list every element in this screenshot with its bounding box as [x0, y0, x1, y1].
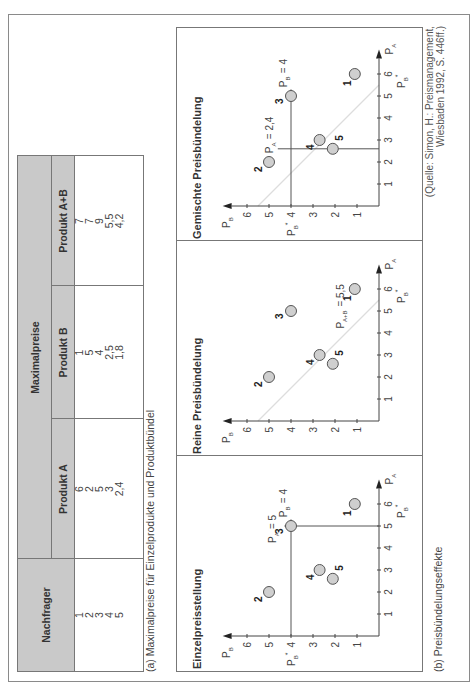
- data-point-4: [314, 350, 325, 361]
- x-tick-label: 4: [383, 545, 394, 551]
- pb-star-y-label: PB*: [284, 652, 299, 666]
- point-label: 4: [305, 359, 316, 365]
- y-tick-label: 4: [286, 642, 297, 648]
- pb-star-label: PB*: [394, 289, 409, 303]
- y-tick-label: 2: [330, 212, 341, 218]
- annotation-pa: PA: [267, 532, 280, 543]
- point-label: 3: [274, 98, 285, 104]
- point-label: 2: [253, 381, 264, 387]
- header-produkt-a: Produkt A: [51, 419, 74, 559]
- point-label: 2: [253, 596, 264, 602]
- source-citation: (Quelle: Simon, H.: Preismanagement, Wie…: [424, 26, 446, 197]
- caption-a: (a) Maximalpreise für Einzelprodukte und…: [144, 410, 156, 672]
- max-price-table: Nachfrager Maximalpreise Produkt A Produ…: [17, 155, 144, 672]
- x-axis-label: PA: [384, 259, 397, 270]
- header-produkt-ab-label: Produkt A+B: [57, 189, 69, 253]
- data-point-3: [286, 91, 297, 102]
- data-point-4: [314, 135, 325, 146]
- annotation-pb: PB: [278, 77, 291, 88]
- panel-gemischte-preisbuendelung: Gemischte Preisbündelung 123456123456PAP…: [177, 26, 422, 241]
- panel-einzelpreisstellung: Einzelpreisstellung 123456123456PAPBPB*P…: [177, 456, 422, 671]
- y-axis-arrow-icon: [223, 633, 232, 639]
- cell: 5: [114, 612, 124, 618]
- x-tick-label: 2: [383, 159, 394, 165]
- x-tick-label: 1: [383, 396, 394, 402]
- source-line-1: (Quelle: Simon, H.: Preismanagement,: [424, 26, 435, 197]
- annotation-pab-value: = 5,5: [335, 284, 346, 307]
- data-point-3: [286, 521, 297, 532]
- x-tick-label: 5: [383, 308, 394, 314]
- y-tick-label: 4: [286, 427, 297, 433]
- point-label: 4: [305, 144, 316, 150]
- panel-reine-preisbuendelung: Reine Preisbündelung 123456123456PAPBPB*…: [177, 241, 422, 456]
- y-tick-label: 6: [242, 427, 253, 433]
- source-line-2: Wiesbaden 1992, S. 446ff.): [435, 26, 446, 197]
- annotation-pa-value: = 5: [267, 514, 278, 529]
- x-tick-label: 2: [383, 374, 394, 380]
- y-axis-label: PB: [221, 647, 234, 658]
- header-nachfrager-label: Nachfrager: [40, 587, 52, 642]
- cell: 1,8: [114, 345, 124, 360]
- y-tick-label: 6: [242, 642, 253, 648]
- pb-star-label: PB*: [394, 504, 409, 518]
- x-tick-label: 2: [383, 589, 394, 595]
- annotation-pb-value: = 4: [278, 489, 289, 504]
- y-tick-label: 5: [264, 642, 275, 648]
- x-tick-label: 5: [383, 93, 394, 99]
- y-tick-label: 3: [308, 212, 319, 218]
- column-produkt-ab: 7 7 9 5,5 4,2: [74, 156, 124, 286]
- point-label: 2: [253, 166, 264, 172]
- x-axis-arrow-icon: [376, 50, 382, 59]
- data-point-5: [327, 358, 338, 369]
- x-axis-arrow-icon: [376, 480, 382, 489]
- header-nachfrager: Nachfrager: [18, 559, 74, 671]
- charts-box: Einzelpreisstellung 123456123456PAPBPB*P…: [176, 27, 423, 672]
- y-tick-label: 4: [286, 212, 297, 218]
- header-produkt-a-label: Produkt A: [57, 464, 69, 514]
- x-tick-label: 4: [383, 330, 394, 336]
- data-point-3: [286, 306, 297, 317]
- annotation-pab: PA+B: [335, 310, 348, 328]
- scatter-chart: 123456123456PAPBPB*PB*12345PA= 2,4PB= 4: [177, 26, 422, 241]
- y-axis-arrow-icon: [223, 418, 232, 424]
- y-tick-label: 3: [308, 642, 319, 648]
- x-axis-label: PA: [384, 474, 397, 485]
- cell: 4,2: [114, 214, 124, 229]
- y-tick-label: 2: [330, 642, 341, 648]
- y-tick-label: 5: [264, 212, 275, 218]
- data-point-4: [314, 565, 325, 576]
- x-tick-label: 4: [383, 115, 394, 121]
- header-produkt-b: Produkt B: [51, 286, 74, 419]
- annotation-pb-value: = 4: [278, 59, 289, 74]
- annotation-pa: PA: [264, 143, 277, 154]
- data-point-1: [349, 284, 360, 295]
- figure-canvas: Nachfrager Maximalpreise Produkt A Produ…: [0, 0, 475, 689]
- column-produkt-b: 1 5 4 2,5 1,8: [74, 286, 124, 419]
- x-tick-label: 6: [383, 286, 394, 292]
- data-point-1: [349, 69, 360, 80]
- x-tick-label: 3: [383, 352, 394, 358]
- point-label: 5: [334, 350, 345, 356]
- x-axis-label: PA: [384, 44, 397, 55]
- point-label: 1: [342, 510, 353, 516]
- y-axis-arrow-icon: [223, 203, 232, 209]
- scatter-chart: 123456123456PAPBPB*PB*12345PA= 5PB= 4: [177, 456, 422, 671]
- scatter-chart: 123456123456PAPBPB*12345PA+B= 5,5: [177, 241, 422, 456]
- x-tick-label: 3: [383, 137, 394, 143]
- y-tick-label: 6: [242, 212, 253, 218]
- y-tick-label: 2: [330, 427, 341, 433]
- x-tick-label: 5: [383, 523, 394, 529]
- data-point-2: [264, 587, 275, 598]
- annotation-pb: PB: [278, 507, 291, 518]
- x-tick-label: 1: [383, 181, 394, 187]
- header-maximalpreise-label: Maximalpreise: [29, 321, 41, 393]
- annotation-pa-value: = 2,4: [264, 116, 275, 139]
- y-tick-label: 1: [352, 642, 363, 648]
- y-tick-label: 1: [352, 427, 363, 433]
- column-produkt-a: 6 2 5 3 2,4: [74, 419, 124, 559]
- data-point-1: [349, 499, 360, 510]
- y-tick-label: 5: [264, 427, 275, 433]
- column-nachfrager: 1 2 3 4 5: [74, 559, 124, 671]
- cell: 2,4: [114, 482, 124, 497]
- caption-b: (b) Preisbündelungseffekte: [432, 547, 444, 672]
